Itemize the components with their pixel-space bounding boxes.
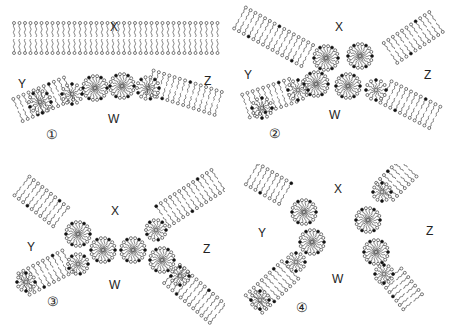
panel-4: X Y Z W ④ [226,164,451,328]
label-z: Z [203,242,210,256]
label-w: W [332,272,343,286]
label-z: Z [204,74,211,88]
label-y: Y [258,226,266,240]
label-z: Z [426,224,433,238]
label-x: X [335,20,343,34]
panel-number-1: ① [46,127,58,142]
panel-2: X Y Z W ② [226,0,451,164]
label-w: W [329,108,340,122]
panel-1: X Y Z W ① [0,0,225,164]
label-x: X [334,182,342,196]
label-z: Z [424,68,431,82]
membrane-fusion-figure: X Y Z W ① X Y Z W ② X Y Z W ③ X Y Z W ④ [0,0,451,328]
panel-number-3: ③ [47,294,59,309]
label-x: X [110,20,118,34]
panel-number-2: ② [269,126,281,141]
panel-3: X Y Z W ③ [0,164,225,328]
label-y: Y [18,77,26,91]
panel-number-4: ④ [296,300,308,315]
label-y: Y [244,68,252,82]
label-w: W [109,278,120,292]
label-y: Y [27,240,35,254]
label-w: W [108,112,119,126]
label-x: X [111,204,119,218]
